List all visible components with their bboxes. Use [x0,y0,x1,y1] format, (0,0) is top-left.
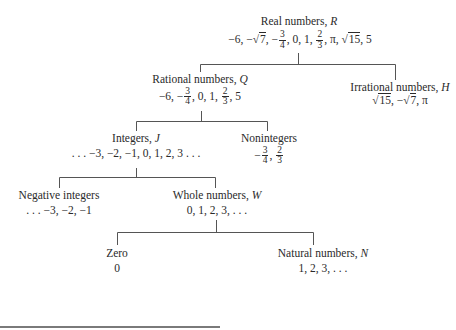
footer-rule [0,326,220,328]
node-label: Real numbers, R [229,16,369,28]
node-negative-integers: Negative integers . . . −3, −2, −1 [4,190,114,216]
node-natural-numbers: Natural numbers, N 1, 2, 3, . . . [268,248,378,274]
node-integers: Integers, J . . . −3, −2, −1, 0, 1, 2, 3… [56,133,216,159]
node-real-numbers: Real numbers, R [229,16,369,28]
connector-integers [60,168,216,188]
connector-rational [137,111,268,131]
node-nonintegers: Nonintegers −34, 23 [237,133,301,166]
node-rational-numbers: Rational numbers, Q −6, −34, 0, 1, 23, 5 [140,74,260,107]
node-irrational-numbers: Irrational numbers, H √15, −√7, π [345,82,455,106]
node-whole-numbers: Whole numbers, W 0, 1, 2, 3, . . . [165,190,269,216]
real-numbers-values: −6, −√7, −34, 0, 1, 23, π, √15, 5 [205,27,395,50]
node-zero: Zero 0 [97,248,137,274]
connector-whole [118,220,314,245]
